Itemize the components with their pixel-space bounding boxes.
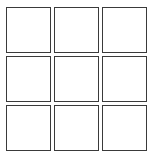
cell-r2-c2[interactable]: [54, 56, 99, 102]
cell-r2-c1[interactable]: [6, 56, 51, 102]
game-board: [5, 7, 149, 154]
cell-r3-c3[interactable]: [102, 105, 147, 151]
cell-r3-c2[interactable]: [54, 105, 99, 151]
cell-r1-c2[interactable]: [54, 7, 99, 53]
cell-r1-c1[interactable]: [6, 7, 51, 53]
cell-r1-c3[interactable]: [102, 7, 147, 53]
cell-r2-c3[interactable]: [102, 56, 147, 102]
cell-r3-c1[interactable]: [6, 105, 51, 151]
